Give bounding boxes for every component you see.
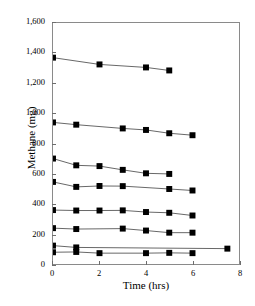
data-point-marker: [53, 249, 56, 255]
y-tick-label: 800: [0, 139, 45, 148]
x-tick-label: 2: [87, 269, 111, 278]
data-point-marker: [53, 225, 56, 231]
x-tick-mark: [99, 261, 100, 265]
data-point-marker: [97, 163, 103, 169]
data-point-marker: [53, 207, 56, 213]
y-tick-label: 1,600: [0, 17, 45, 26]
x-tick-mark: [193, 261, 194, 265]
data-point-marker: [190, 230, 196, 236]
data-point-marker: [166, 186, 172, 192]
data-point-marker: [73, 184, 79, 190]
data-point-marker: [53, 179, 56, 185]
series-canvas: [53, 23, 239, 264]
data-series: [53, 207, 195, 218]
x-tick-label: 6: [181, 269, 205, 278]
x-tick-mark: [52, 261, 53, 265]
data-point-marker: [53, 243, 56, 249]
data-point-marker: [143, 228, 149, 234]
data-point-marker: [143, 170, 149, 176]
y-tick-mark: [52, 83, 56, 84]
data-point-marker: [143, 127, 149, 133]
x-tick-label: 8: [228, 269, 252, 278]
y-tick-mark: [52, 144, 56, 145]
x-axis-label: Time (hrs): [52, 279, 240, 291]
y-tick-mark: [52, 52, 56, 53]
data-point-marker: [73, 208, 79, 214]
data-point-marker: [166, 250, 172, 256]
y-tick-label: 200: [0, 230, 45, 239]
y-tick-label: 1,000: [0, 108, 45, 117]
y-tick-mark: [52, 265, 56, 266]
plot-area: [52, 22, 240, 265]
data-point-marker: [73, 122, 79, 128]
data-point-marker: [120, 207, 126, 213]
data-point-marker: [190, 250, 196, 256]
data-series: [53, 179, 195, 194]
data-point-marker: [73, 249, 79, 255]
y-tick-mark: [52, 235, 56, 236]
y-tick-label: 1,200: [0, 78, 45, 87]
data-point-marker: [97, 208, 103, 214]
y-tick-label: 400: [0, 199, 45, 208]
data-point-marker: [53, 156, 56, 162]
data-point-marker: [166, 210, 172, 216]
x-tick-mark: [240, 261, 241, 265]
y-tick-mark: [52, 22, 56, 23]
data-point-marker: [120, 167, 126, 173]
series-line: [53, 58, 169, 71]
data-point-marker: [190, 188, 196, 194]
y-tick-label: 0: [0, 260, 45, 269]
data-point-marker: [166, 67, 172, 73]
data-point-marker: [53, 119, 56, 125]
data-series: [53, 156, 172, 177]
data-point-marker: [97, 183, 103, 189]
data-point-marker: [120, 226, 126, 232]
data-point-marker: [97, 61, 103, 67]
data-point-marker: [166, 130, 172, 136]
x-tick-label: 4: [134, 269, 158, 278]
y-tick-mark: [52, 174, 56, 175]
data-series: [53, 119, 195, 138]
data-series: [53, 225, 195, 235]
data-series: [53, 55, 172, 74]
data-point-marker: [73, 162, 79, 168]
y-tick-label: 600: [0, 169, 45, 178]
data-point-marker: [143, 64, 149, 70]
data-point-marker: [143, 209, 149, 215]
chart-figure: Methane (mg) 02004006008001,0001,2001,40…: [0, 0, 255, 306]
data-series: [53, 249, 195, 256]
x-tick-label: 0: [40, 269, 64, 278]
y-tick-mark: [52, 204, 56, 205]
data-point-marker: [166, 230, 172, 236]
data-point-marker: [53, 55, 56, 61]
data-point-marker: [143, 250, 149, 256]
y-tick-label: 1,400: [0, 47, 45, 56]
y-tick-mark: [52, 113, 56, 114]
data-point-marker: [120, 183, 126, 189]
data-point-marker: [224, 246, 230, 252]
data-point-marker: [73, 226, 79, 232]
data-point-marker: [190, 132, 196, 138]
data-point-marker: [190, 213, 196, 219]
data-point-marker: [166, 171, 172, 177]
series-line: [53, 159, 169, 174]
data-point-marker: [97, 250, 103, 256]
data-point-marker: [120, 125, 126, 131]
data-series: [53, 243, 230, 252]
x-tick-mark: [146, 261, 147, 265]
